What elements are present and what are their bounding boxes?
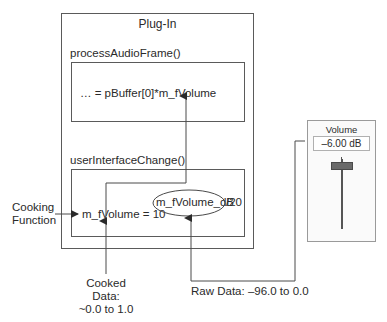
volume-value-field[interactable]: –6.00 dB bbox=[313, 136, 370, 151]
ellipse-highlight bbox=[153, 190, 225, 216]
volume-panel: Volume –6.00 dB bbox=[307, 120, 376, 242]
volume-title: Volume bbox=[308, 124, 375, 135]
volume-slider-thumb[interactable] bbox=[331, 162, 353, 170]
